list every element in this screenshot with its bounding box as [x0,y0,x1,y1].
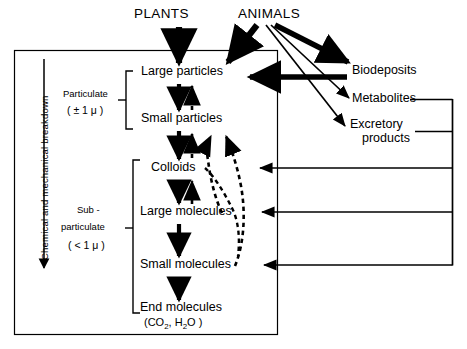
group-range-particulate: ( ± 1 μ ) [67,105,103,116]
source-label-animals: ANIMALS [238,7,300,21]
node-end-molecules: End molecules [140,301,222,314]
node-end-molecules-formula: (CO2, H2O ) [144,317,202,332]
node-large-particles: Large particles [141,65,223,78]
formula-mid: , H [169,316,183,328]
arrow-animals-to-metabolites [271,25,349,98]
source-label-plants: PLANTS [134,7,189,21]
particulate-bracket [126,71,133,129]
output-biodeposits: Biodeposits [352,64,417,77]
diagram-canvas: PLANTS ANIMALS Chemical and mechanical b… [0,0,467,349]
output-excretory-products-line1: Excretory [350,118,403,131]
output-excretory-products-line2: products [362,132,410,145]
formula-suffix: O ) [187,316,202,328]
node-small-particles: Small particles [141,112,222,125]
node-colloids: Colloids [151,161,195,174]
formula-prefix: (CO [144,316,164,328]
dashed-path-large-molecules-to-small-particles [207,136,222,213]
node-large-molecules: Large molecules [140,205,232,218]
group-label-particulate: Particulate [63,89,108,99]
node-small-molecules: Small molecules [140,258,231,271]
output-metabolites: Metabolites [352,92,416,105]
subparticulate-bracket [133,160,140,313]
diagram-vector-layer [0,0,467,349]
arrow-animals-to-large-particles [228,25,257,62]
breakdown-axis-label: Chemical and mechanical breakdown [39,96,50,261]
group-label-subparticulate-line2: particulate [61,222,105,232]
arrow-animals-to-biodeposits [275,25,348,62]
group-label-subparticulate-line1: Sub - [77,205,100,215]
group-range-subparticulate: ( < 1 μ ) [68,240,105,251]
system-boundary-box [15,51,278,335]
